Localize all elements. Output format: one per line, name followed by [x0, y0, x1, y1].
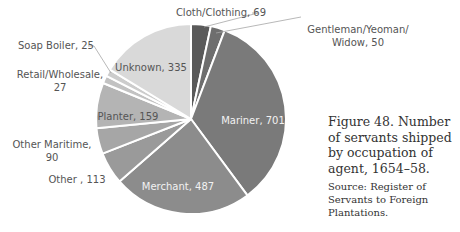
slice-label: Gentleman/Yeoman/Widow, 50	[307, 24, 409, 48]
figure-caption: Figure 48. Number of servants shipped by…	[328, 114, 460, 176]
figure-source: Source: Register of Servants to Foreign …	[328, 180, 460, 219]
slice-label: Soap Boiler, 25	[18, 40, 94, 51]
slice-label: Merchant, 487	[142, 181, 214, 192]
slice-label: Other , 113	[48, 174, 105, 185]
slice-label: Retail/Wholesale,27	[17, 69, 103, 93]
slice-label: Mariner, 701	[221, 115, 285, 126]
slice-label: Planter, 159	[98, 111, 159, 122]
slice-label: Other Maritime,90	[13, 139, 92, 163]
slice-label: Cloth/Clothing, 69	[176, 7, 266, 18]
leader-line	[216, 17, 301, 33]
slice-label: Unknown, 335	[115, 62, 187, 73]
